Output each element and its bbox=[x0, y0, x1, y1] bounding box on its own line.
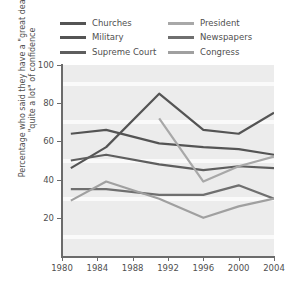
legend-swatch-supreme-court bbox=[60, 51, 86, 54]
legend-item-supreme-court: Supreme Court bbox=[60, 45, 156, 60]
x-tick bbox=[133, 257, 134, 261]
x-tick bbox=[62, 257, 63, 261]
series-line-newspapers bbox=[71, 185, 274, 198]
x-tick-label: 1992 bbox=[151, 263, 185, 273]
y-tick bbox=[57, 141, 61, 142]
legend-swatch-congress bbox=[168, 51, 194, 54]
series-line-president bbox=[159, 118, 274, 181]
x-tick-label: 1988 bbox=[116, 263, 150, 273]
y-axis-label: Percentage who said they have a "great d… bbox=[18, 0, 38, 180]
legend-label-churches: Churches bbox=[92, 19, 132, 28]
x-tick bbox=[274, 257, 275, 261]
legend-item-congress: Congress bbox=[168, 45, 252, 60]
y-tick bbox=[57, 103, 61, 104]
y-tick bbox=[57, 180, 61, 181]
legend-label-military: Military bbox=[92, 33, 124, 42]
legend-item-military: Military bbox=[60, 31, 156, 46]
y-tick-label: 60 bbox=[28, 136, 54, 146]
y-tick-label: 100 bbox=[28, 60, 54, 70]
x-tick bbox=[239, 257, 240, 261]
y-tick bbox=[57, 65, 61, 66]
x-tick bbox=[97, 257, 98, 261]
legend-column-left: Churches Military Supreme Court bbox=[60, 16, 156, 60]
x-tick-label: 1984 bbox=[80, 263, 114, 273]
x-tick-label: 2004 bbox=[257, 263, 291, 273]
chart-legend: Churches Military Supreme Court Presiden… bbox=[60, 16, 290, 60]
legend-swatch-churches bbox=[60, 22, 86, 25]
legend-swatch-president bbox=[168, 22, 194, 25]
plot-area bbox=[62, 65, 274, 256]
x-tick-label: 1996 bbox=[186, 263, 220, 273]
y-tick-label: 20 bbox=[28, 213, 54, 223]
legend-swatch-military bbox=[60, 36, 86, 39]
legend-swatch-newspapers bbox=[168, 36, 194, 39]
y-tick-label: 40 bbox=[28, 175, 54, 185]
legend-column-right: President Newspapers Congress bbox=[168, 16, 252, 60]
legend-item-president: President bbox=[168, 16, 252, 31]
y-tick bbox=[57, 218, 61, 219]
x-tick bbox=[168, 257, 169, 261]
x-tick-label: 1980 bbox=[45, 263, 79, 273]
legend-item-churches: Churches bbox=[60, 16, 156, 31]
legend-label-president: President bbox=[200, 19, 240, 28]
legend-label-congress: Congress bbox=[200, 48, 239, 57]
chart-screenshot: Churches Military Supreme Court Presiden… bbox=[0, 0, 307, 296]
y-axis-line bbox=[61, 64, 63, 257]
series-line-supreme-court bbox=[71, 155, 274, 170]
legend-label-supreme-court: Supreme Court bbox=[92, 48, 156, 57]
x-tick-label: 2000 bbox=[222, 263, 256, 273]
series-lines bbox=[62, 65, 274, 256]
legend-item-newspapers: Newspapers bbox=[168, 31, 252, 46]
y-tick-label: 80 bbox=[28, 98, 54, 108]
x-tick bbox=[203, 257, 204, 261]
legend-label-newspapers: Newspapers bbox=[200, 33, 252, 42]
